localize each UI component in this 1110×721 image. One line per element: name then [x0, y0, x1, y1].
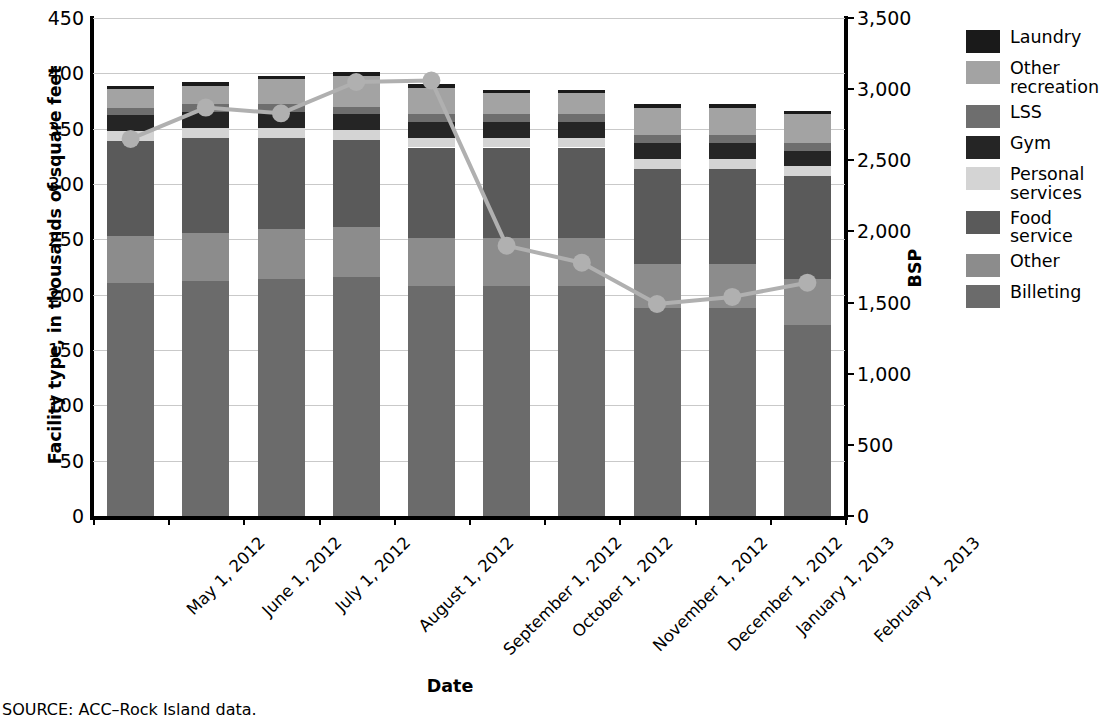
y-axis-left-tick-label: 100 — [24, 394, 84, 416]
bar-segment-laundry — [483, 90, 530, 93]
legend-swatch-icon — [966, 254, 1000, 277]
bar-segment-other — [483, 238, 530, 286]
bar-segment-other — [558, 238, 605, 286]
bar-segment-laundry — [709, 104, 756, 107]
x-axis-tick-mark — [394, 518, 396, 525]
y-axis-right-tick-label: 500 — [857, 434, 927, 456]
bar-stack — [483, 90, 530, 516]
gridline — [93, 18, 845, 19]
bar-stack — [634, 104, 681, 516]
source-note: SOURCE: ACC–Rock Island data. — [2, 700, 257, 719]
bar-segment-food-service — [258, 138, 305, 230]
bar-segment-lss — [709, 135, 756, 143]
bar-segment-gym — [258, 112, 305, 127]
bar-segment-other — [709, 264, 756, 308]
bar-segment-laundry — [634, 104, 681, 107]
bar-segment-lss — [107, 108, 154, 116]
bar-segment-personal-services — [709, 159, 756, 169]
bar-segment-food-service — [182, 138, 229, 233]
bar-segment-lss — [408, 114, 455, 122]
bar-segment-other — [107, 236, 154, 282]
y-axis-left-tick-label: 400 — [24, 62, 84, 84]
legend: LaundryOther recreationLSSGymPersonal se… — [966, 28, 1110, 314]
x-axis-tick-mark — [243, 518, 245, 525]
bar-segment-billeting — [107, 283, 154, 517]
legend-item-label: Other recreation — [1010, 59, 1110, 97]
bar-segment-lss — [634, 135, 681, 143]
bar-segment-other — [634, 264, 681, 308]
bar-segment-other-recreation — [634, 108, 681, 136]
x-axis-tick-label: May 1, 2012 — [183, 533, 269, 619]
y-axis-right-tick-label: 0 — [857, 505, 927, 527]
y-axis-right-tick-label: 2,000 — [857, 220, 927, 242]
x-axis-tick-mark — [770, 518, 772, 525]
legend-item[interactable]: Food service — [966, 209, 1110, 247]
legend-item[interactable]: Personal services — [966, 165, 1110, 203]
legend-item[interactable]: LSS — [966, 103, 1110, 128]
y-axis-right-tick-mark — [845, 230, 854, 232]
bar-segment-other-recreation — [182, 86, 229, 105]
y-axis-right-tick-mark — [845, 515, 854, 517]
bar-segment-laundry — [333, 72, 380, 75]
bar-segment-laundry — [182, 82, 229, 85]
bar-segment-lss — [258, 104, 305, 112]
y-axis-right-tick-label: 2,500 — [857, 149, 927, 171]
bar-segment-lss — [483, 114, 530, 122]
bar-segment-food-service — [784, 176, 831, 279]
bar-segment-billeting — [709, 308, 756, 516]
legend-item[interactable]: Gym — [966, 134, 1110, 159]
bar-segment-food-service — [483, 148, 530, 239]
y-axis-right-line — [844, 16, 848, 518]
bar-segment-other — [333, 227, 380, 277]
x-axis-tick-mark — [619, 518, 621, 525]
legend-swatch-icon — [966, 167, 1000, 190]
legend-item-label: Billeting — [1010, 283, 1081, 302]
bar-segment-billeting — [558, 286, 605, 516]
y-axis-right-tick-label: 3,000 — [857, 78, 927, 100]
bar-segment-gym — [634, 143, 681, 158]
legend-item[interactable]: Laundry — [966, 28, 1110, 53]
bar-segment-other-recreation — [107, 89, 154, 108]
bar-segment-gym — [784, 151, 831, 166]
bar-segment-other-recreation — [408, 88, 455, 115]
y-axis-left-tick-label: 200 — [24, 284, 84, 306]
y-axis-right-tick-mark — [845, 17, 854, 19]
bar-segment-gym — [107, 115, 154, 130]
legend-item-label: Food service — [1010, 209, 1110, 247]
y-axis-left-tick-label: 300 — [24, 173, 84, 195]
x-axis-tick-label: August 1, 2012 — [415, 533, 518, 636]
bar-segment-other-recreation — [784, 114, 831, 143]
bar-segment-laundry — [107, 86, 154, 89]
bar-segment-other-recreation — [709, 108, 756, 136]
bar-segment-personal-services — [784, 166, 831, 176]
bar-segment-lss — [182, 104, 229, 112]
bar-segment-other — [784, 279, 831, 324]
bar-segment-other-recreation — [483, 93, 530, 114]
bar-segment-billeting — [408, 286, 455, 516]
bar-segment-food-service — [558, 148, 605, 239]
y-axis-left-tick-label: 250 — [24, 228, 84, 250]
y-axis-left-tick-label: 50 — [24, 450, 84, 472]
bar-segment-billeting — [784, 325, 831, 516]
bar-segment-personal-services — [558, 138, 605, 148]
legend-item[interactable]: Billeting — [966, 283, 1110, 308]
x-axis-tick-label: June 1, 2012 — [258, 533, 345, 620]
bar-stack — [333, 72, 380, 516]
legend-item[interactable]: Other recreation — [966, 59, 1110, 97]
bar-segment-lss — [558, 114, 605, 122]
legend-swatch-icon — [966, 105, 1000, 128]
legend-item-label: LSS — [1010, 103, 1042, 122]
legend-item[interactable]: Other — [966, 252, 1110, 277]
x-axis-tick-mark — [469, 518, 471, 525]
legend-item-label: Other — [1010, 252, 1060, 271]
bar-segment-food-service — [107, 141, 154, 236]
bar-segment-laundry — [784, 111, 831, 114]
bar-stack — [784, 111, 831, 516]
legend-swatch-icon — [966, 30, 1000, 53]
bar-segment-lss — [784, 143, 831, 151]
y-axis-left-tick-label: 450 — [24, 7, 84, 29]
bar-segment-gym — [333, 114, 380, 129]
bar-segment-billeting — [182, 281, 229, 516]
chart-figure: Facility type, in thousands of square fe… — [0, 0, 1110, 721]
bar-segment-laundry — [258, 76, 305, 79]
